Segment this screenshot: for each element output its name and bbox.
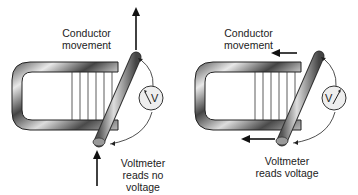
- voltmeter-reading-label: Voltmeter reads no voltage: [115, 157, 171, 193]
- voltmeter-reading-label: Voltmeter reads voltage: [249, 155, 325, 179]
- horseshoe-magnet-icon: [195, 62, 301, 130]
- horseshoe-magnet-icon: [12, 62, 118, 130]
- conductor-movement-label: Conductor movement: [62, 27, 111, 51]
- voltmeter-icon: V: [139, 86, 163, 110]
- voltmeter-icon: V: [322, 86, 346, 110]
- svg-text:V: V: [325, 92, 333, 104]
- conductor-movement-label: Conductor movement: [224, 27, 273, 51]
- svg-text:V: V: [151, 92, 159, 104]
- left-diagram-panel: V Conductor movement Voltmeter reads no …: [0, 0, 179, 195]
- right-diagram-panel: V Conductor movement Voltmeter reads vol…: [179, 0, 358, 195]
